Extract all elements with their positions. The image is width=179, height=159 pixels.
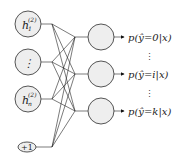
input-node-ellipsis: ⋮ xyxy=(15,49,41,75)
output-ellipsis-1: ⋮ xyxy=(145,52,154,62)
svg-text:+1: +1 xyxy=(21,143,33,152)
svg-text:p(ŷ=0|x): p(ŷ=0|x) xyxy=(128,32,172,44)
svg-text:p(ŷ=k|x): p(ŷ=k|x) xyxy=(128,106,171,118)
network-diagram: h 1 (2) ⋮ h n (2) +1 p(ŷ=0|x) ⋮ p(ŷ=i|x)… xyxy=(0,0,179,159)
output-node-k: p(ŷ=k|x) xyxy=(88,98,171,124)
bias-node: +1 xyxy=(18,142,36,152)
output-node-0: p(ŷ=0|x) xyxy=(88,24,172,50)
input-node-hn: h n (2) xyxy=(15,86,41,112)
svg-text:⋮: ⋮ xyxy=(23,57,34,70)
svg-text:1: 1 xyxy=(28,25,32,32)
input-node-h1: h 1 (2) xyxy=(15,11,41,37)
svg-text:(2): (2) xyxy=(28,16,37,23)
svg-text:(2): (2) xyxy=(28,91,37,98)
output-ellipsis-2: ⋮ xyxy=(145,89,154,99)
edges xyxy=(36,24,88,147)
output-node-i: p(ŷ=i|x) xyxy=(88,61,169,87)
svg-text:p(ŷ=i|x): p(ŷ=i|x) xyxy=(128,69,169,81)
svg-text:n: n xyxy=(28,100,32,107)
